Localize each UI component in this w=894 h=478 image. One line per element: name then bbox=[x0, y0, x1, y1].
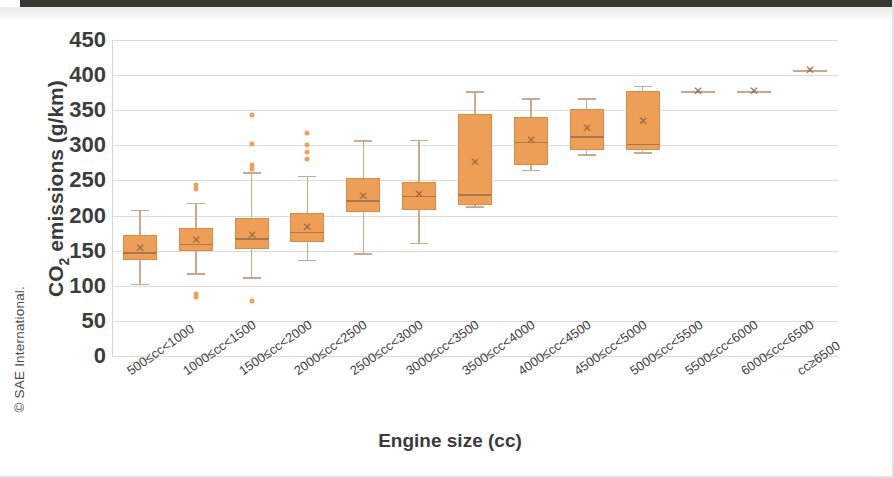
mean-marker: ✕ bbox=[526, 134, 536, 146]
whisker-cap-lower bbox=[634, 152, 652, 154]
whisker-cap-lower bbox=[410, 243, 428, 245]
y-axis-tick-label: 0 bbox=[32, 345, 106, 367]
whisker-cap-upper bbox=[298, 176, 316, 178]
gridline bbox=[112, 75, 838, 76]
whisker-cap-lower bbox=[298, 260, 316, 262]
outlier-point bbox=[305, 143, 310, 148]
outlier-point bbox=[249, 141, 254, 146]
gridline bbox=[112, 216, 838, 217]
whisker-cap-lower bbox=[187, 273, 205, 275]
mean-marker: ✕ bbox=[191, 234, 201, 246]
x-axis-label: Engine size (cc) bbox=[110, 430, 790, 452]
y-axis-line bbox=[112, 40, 113, 356]
mean-marker: ✕ bbox=[247, 229, 257, 241]
y-axis-tick-label: 250 bbox=[32, 169, 106, 191]
whisker-cap-lower bbox=[243, 277, 261, 279]
outlier-point bbox=[249, 299, 254, 304]
whisker-cap-upper bbox=[354, 140, 372, 142]
whisker-cap-upper bbox=[243, 172, 261, 174]
mean-marker: ✕ bbox=[805, 64, 815, 76]
whisker-cap-upper bbox=[131, 210, 149, 212]
mean-marker: ✕ bbox=[414, 188, 424, 200]
whisker-cap-lower bbox=[466, 206, 484, 208]
median-line bbox=[626, 144, 660, 146]
mean-marker: ✕ bbox=[582, 122, 592, 134]
box-plot-chart: CO2 emissions (g/km) 4504003503002502001… bbox=[0, 0, 894, 478]
y-axis-tick-label: 450 bbox=[32, 29, 106, 51]
whisker-cap-upper bbox=[578, 98, 596, 100]
median-line bbox=[458, 194, 492, 196]
outlier-point bbox=[249, 167, 254, 172]
mean-marker: ✕ bbox=[470, 156, 480, 168]
figure-container: © SAE International. CO2 emissions (g/km… bbox=[0, 0, 894, 478]
mean-marker: ✕ bbox=[693, 85, 703, 97]
whisker-cap-upper bbox=[634, 86, 652, 88]
gridline bbox=[112, 40, 838, 41]
mean-marker: ✕ bbox=[638, 115, 648, 127]
outlier-point bbox=[193, 295, 198, 300]
outlier-point bbox=[249, 113, 254, 118]
y-axis-tick-label: 100 bbox=[32, 275, 106, 297]
y-axis-ticks: 450400350300250200150100500 bbox=[32, 0, 106, 478]
mean-marker: ✕ bbox=[358, 190, 368, 202]
y-axis-tick-label: 300 bbox=[32, 134, 106, 156]
whisker-cap-upper bbox=[410, 140, 428, 142]
outlier-point bbox=[305, 131, 310, 136]
whisker-cap-upper bbox=[187, 203, 205, 205]
whisker-cap-lower bbox=[522, 170, 540, 172]
y-axis-tick-label: 350 bbox=[32, 99, 106, 121]
whisker-cap-lower bbox=[354, 253, 372, 255]
mean-marker: ✕ bbox=[135, 242, 145, 254]
outlier-point bbox=[305, 156, 310, 161]
whisker-cap-upper bbox=[522, 98, 540, 100]
whisker-cap-lower bbox=[131, 284, 149, 286]
whisker-cap-lower bbox=[578, 154, 596, 156]
y-axis-tick-label: 200 bbox=[32, 205, 106, 227]
outlier-point bbox=[193, 186, 198, 191]
whisker-cap-upper bbox=[466, 91, 484, 93]
y-axis-tick-label: 50 bbox=[32, 310, 106, 332]
y-axis-tick-label: 400 bbox=[32, 64, 106, 86]
mean-marker: ✕ bbox=[749, 85, 759, 97]
plot-area: ✕✕✕✕✕✕✕✕✕✕✕✕✕ bbox=[112, 40, 838, 356]
median-line bbox=[570, 136, 604, 138]
gridline bbox=[112, 251, 838, 252]
outlier-point bbox=[305, 150, 310, 155]
gridline bbox=[112, 286, 838, 287]
mean-marker: ✕ bbox=[302, 221, 312, 233]
y-axis-tick-label: 150 bbox=[32, 240, 106, 262]
